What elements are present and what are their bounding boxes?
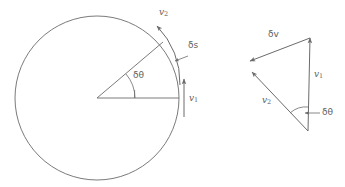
figure-canvas xyxy=(0,0,345,187)
label-v2-triangle: v2 xyxy=(262,96,271,106)
label-v1-circle: v1 xyxy=(189,94,198,104)
v1-vector xyxy=(308,38,310,131)
delta-theta-arc-right xyxy=(290,107,309,113)
delta-s-leader xyxy=(175,56,188,61)
delta-s-arc-arrow xyxy=(157,26,180,85)
label-delta-theta-triangle: δθ xyxy=(322,108,333,117)
label-delta-v: δv xyxy=(268,30,279,39)
radius-angled xyxy=(97,42,163,98)
label-v2-circle: v2 xyxy=(159,8,168,18)
v2-vector xyxy=(252,72,308,131)
physics-figure: v2 δs v1 δθ δv v1 v2 δθ xyxy=(0,0,345,187)
delta-v-vector xyxy=(250,38,310,61)
label-v1-triangle: v1 xyxy=(314,70,323,80)
label-delta-s: δs xyxy=(188,41,198,50)
circle-diagram-group xyxy=(15,16,188,180)
label-delta-theta-circle: δθ xyxy=(133,71,144,80)
vector-triangle-group xyxy=(250,38,320,131)
